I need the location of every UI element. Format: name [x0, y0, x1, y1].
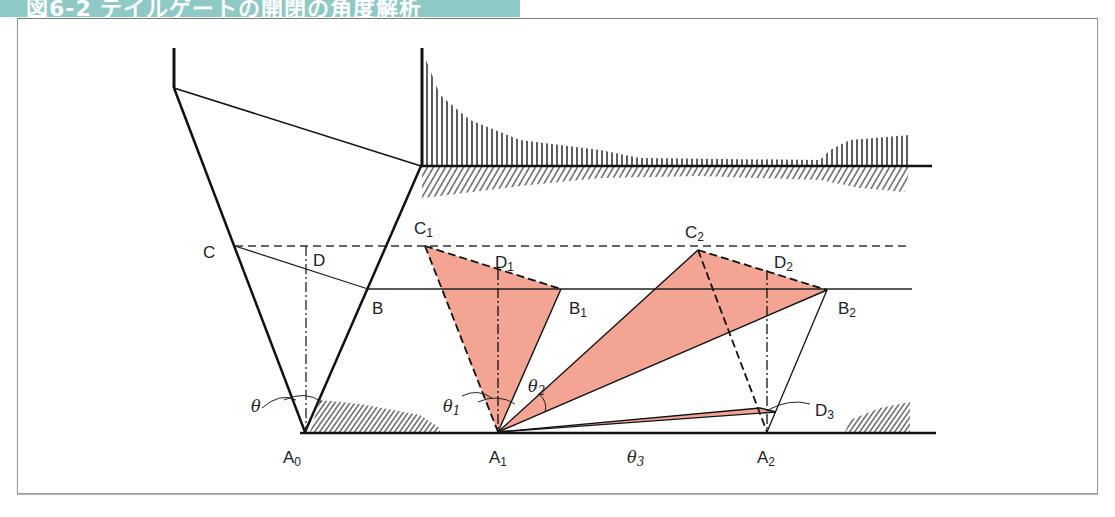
ground: [300, 400, 936, 433]
label-theta1: θ1: [443, 397, 460, 418]
label-a2: A2: [757, 448, 775, 469]
label-d: D: [313, 251, 325, 270]
label-b1: B1: [569, 299, 587, 320]
label-theta3: θ3: [627, 448, 645, 469]
geometry-diagram: C D B C1 D1 B1 C2 D2 B2 D3 A0 A1 A2 θ θ1…: [0, 0, 1115, 517]
label-theta2: θ2: [528, 377, 545, 398]
label-c2: C2: [685, 223, 704, 244]
label-d1: D1: [495, 253, 514, 274]
label-c: C: [203, 243, 215, 262]
ceiling-hatching: [420, 48, 932, 198]
label-a0: A0: [283, 448, 301, 469]
label-d3: D3: [815, 401, 834, 422]
label-a1: A1: [489, 448, 507, 469]
label-theta: θ: [251, 397, 261, 416]
label-b: B: [372, 299, 383, 318]
label-c1: C1: [414, 219, 433, 240]
label-b2: B2: [838, 299, 856, 320]
label-d2: D2: [774, 253, 793, 274]
